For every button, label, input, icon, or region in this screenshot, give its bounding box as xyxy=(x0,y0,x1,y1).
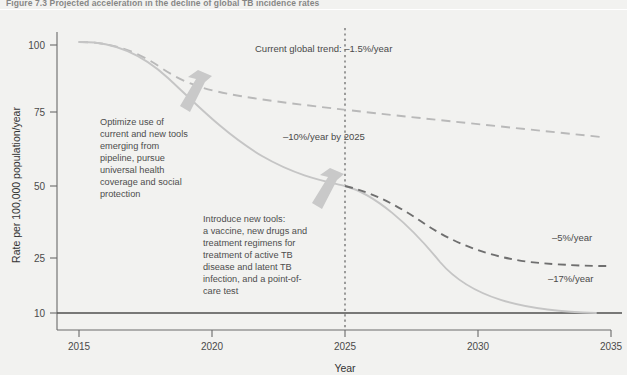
y-tick-label-25: 25 xyxy=(34,253,46,264)
x-axis-title: Year xyxy=(334,362,356,374)
callout-optimize-tools: Optimize use of current and new tools em… xyxy=(100,117,188,199)
callout-introduce-new-tools: Introduce new tools: a vaccine, new drug… xyxy=(203,214,307,296)
x-tick-label-2030: 2030 xyxy=(467,341,490,352)
callout1-line-1: current and new tools xyxy=(100,129,188,139)
chart-plot-area: 100 75 50 25 10 Rate per 100,000 populat… xyxy=(0,10,627,375)
annotation-milestone-2025: –10%/year by 2025 xyxy=(283,131,365,142)
callout2-line-3: treatment of active TB xyxy=(203,250,293,260)
y-axis-title: Rate per 100,000 population/year xyxy=(10,107,22,263)
callout2-line-1: a vaccine, new drugs and xyxy=(203,226,307,236)
x-tick-label-2025: 2025 xyxy=(334,341,357,352)
y-tick-label-100: 100 xyxy=(28,40,45,51)
x-axis-ticks xyxy=(79,330,611,337)
callout2-line-5: infection, and a point-of- xyxy=(203,274,302,284)
callout2-line-4: disease and latent TB xyxy=(203,262,292,272)
callout2-line-0: Introduce new tools: xyxy=(203,214,285,224)
x-tick-label-2015: 2015 xyxy=(68,341,91,352)
annotation-current-global-trend: Current global trend: –1.5%/year xyxy=(255,43,392,54)
annotation-rate-5-percent: –5%/year xyxy=(552,232,592,243)
figure-title: Figure 7.3 Projected acceleration in the… xyxy=(6,0,319,8)
callout1-line-0: Optimize use of xyxy=(100,117,164,127)
callout1-line-6: protection xyxy=(100,189,140,199)
callout-arrow-introduce-new-tools xyxy=(312,168,344,209)
callout1-line-5: coverage and social xyxy=(100,177,182,187)
callout2-line-2: treatment regimens for xyxy=(203,238,295,248)
x-tick-label-2035: 2035 xyxy=(600,341,623,352)
y-tick-label-10: 10 xyxy=(34,308,46,319)
y-axis-ticks xyxy=(50,45,57,313)
series-decline-5 xyxy=(345,186,608,266)
x-tick-label-2020: 2020 xyxy=(201,341,224,352)
y-tick-label-50: 50 xyxy=(34,181,46,192)
callout-arrow-optimize-tools xyxy=(180,70,212,112)
callout1-line-4: universal health xyxy=(100,165,164,175)
callout1-line-3: pipeline, pursue xyxy=(100,153,165,163)
callout2-line-6: care test xyxy=(203,286,239,296)
annotation-rate-17-percent: –17%/year xyxy=(548,273,593,284)
y-tick-label-75: 75 xyxy=(34,107,46,118)
callout1-line-2: emerging from xyxy=(100,141,160,151)
